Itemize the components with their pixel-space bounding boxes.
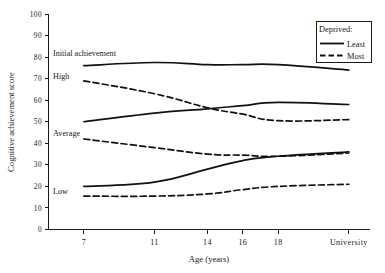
y-tick-label: 0 xyxy=(38,225,42,234)
series-line-low-least xyxy=(84,152,349,186)
y-tick-label: 90 xyxy=(34,31,42,40)
y-tick-label: 60 xyxy=(34,96,42,105)
x-axis-group: 711141618University Age (years) xyxy=(49,230,371,265)
x-axis-title: Age (years) xyxy=(189,254,229,264)
x-tick-label: 18 xyxy=(274,238,283,247)
y-tick-label: 70 xyxy=(34,74,42,83)
y-tick-label: 80 xyxy=(34,53,42,62)
series-line-low-most xyxy=(84,184,349,196)
chart-svg: 0102030405060708090100 Cognitive achieve… xyxy=(0,0,385,273)
x-tick-label: 14 xyxy=(203,238,212,247)
cognitive-achievement-line-chart: 0102030405060708090100 Cognitive achieve… xyxy=(0,0,385,273)
series-line-high-most xyxy=(84,81,349,121)
legend-label-most: Most xyxy=(347,52,365,61)
series-line-high-least xyxy=(84,62,349,70)
y-axis-title: Cognitive achievement score xyxy=(6,72,16,172)
x-tick-label: 7 xyxy=(82,238,86,247)
series-paths-group xyxy=(84,62,349,196)
legend-label-least: Least xyxy=(347,40,366,49)
group-label-average: Average xyxy=(53,129,80,138)
legend-title: Deprived: xyxy=(319,25,353,34)
x-tick-label: 11 xyxy=(150,238,159,247)
group-label-low: Low xyxy=(53,187,68,196)
legend: Deprived: Least Most xyxy=(316,22,371,63)
y-tick-marks xyxy=(45,14,49,230)
x-tick-marks xyxy=(84,230,349,235)
group-label-high: High xyxy=(53,72,69,81)
x-tick-labels: 711141618University xyxy=(82,238,368,247)
group-label-initial-achievement: Initial achievement xyxy=(53,49,117,58)
series-line-average-least xyxy=(84,102,349,121)
y-tick-label: 20 xyxy=(34,182,42,191)
y-tick-label: 30 xyxy=(34,160,42,169)
x-tick-label: 16 xyxy=(238,238,247,247)
y-tick-label: 50 xyxy=(34,117,42,126)
x-tick-label: University xyxy=(330,238,368,247)
y-tick-label: 10 xyxy=(34,204,42,213)
y-axis-group: 0102030405060708090100 Cognitive achieve… xyxy=(6,10,49,235)
y-tick-labels: 0102030405060708090100 xyxy=(30,10,42,235)
y-tick-label: 100 xyxy=(30,10,42,19)
y-tick-label: 40 xyxy=(34,139,42,148)
